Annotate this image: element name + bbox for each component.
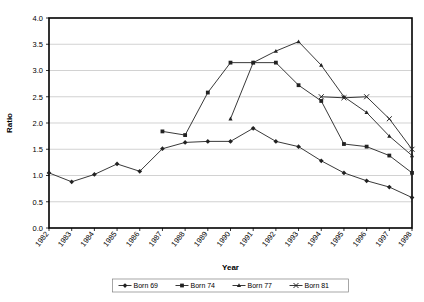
x-axis-tick-label-text: 1993 [283, 230, 300, 249]
data-point [410, 171, 414, 175]
data-point [365, 145, 369, 149]
x-axis-tick-label: 1984 [79, 230, 96, 249]
x-axis-tick-label-text: 1997 [374, 230, 391, 249]
y-axis-tick-label: 3.5 [33, 40, 43, 49]
x-axis-tick-label: 1988 [169, 230, 186, 249]
x-axis-tick-label: 1997 [374, 230, 391, 249]
chart-container: 0.00.51.01.52.02.53.03.54.01982198319841… [0, 0, 424, 302]
x-axis-tick-label: 1991 [237, 230, 254, 249]
x-axis-tick-label-text: 1990 [215, 230, 232, 249]
x-axis-tick-label: 1998 [396, 230, 413, 249]
line-chart: 0.00.51.01.52.02.53.03.54.01982198319841… [0, 0, 424, 302]
y-axis-tick-label: 2.0 [33, 119, 43, 128]
x-axis-tick-label: 1993 [283, 230, 300, 249]
x-axis-tick-label-text: 1987 [147, 230, 164, 249]
legend-item-label: Born 77 [248, 282, 273, 289]
legend-marker-square-icon [180, 284, 184, 288]
legend-item-label: Born 74 [191, 282, 216, 289]
data-point [229, 61, 233, 65]
data-point [183, 133, 187, 137]
data-point [297, 83, 301, 87]
x-axis-tick-label-text: 1984 [79, 230, 96, 249]
x-axis-tick-label-text: 1995 [328, 230, 345, 249]
x-axis-tick-label: 1992 [260, 230, 277, 249]
x-axis-tick-label-text: 1989 [192, 230, 209, 249]
data-point [161, 130, 165, 134]
data-point [342, 142, 346, 146]
y-axis-tick-label: 4.0 [33, 14, 43, 23]
x-axis-tick-label-text: 1988 [169, 230, 186, 249]
x-axis-tick-label-text: 1983 [56, 230, 73, 249]
x-axis-tick-label: 1985 [101, 230, 118, 249]
x-axis-tick-label-text: 1996 [351, 230, 368, 249]
x-axis-tick-label: 1995 [328, 230, 345, 249]
x-axis-tick-label: 1990 [215, 230, 232, 249]
data-point [274, 61, 278, 65]
data-point [319, 99, 323, 103]
x-axis-tick-label: 1983 [56, 230, 73, 249]
y-axis-title: Ratio [5, 113, 14, 133]
x-axis-tick-label-text: 1992 [260, 230, 277, 249]
x-axis-tick-label-text: 1986 [124, 230, 141, 249]
chart-legend: Born 69Born 74Born 77Born 81 [113, 279, 349, 292]
y-axis-tick-label: 0.5 [33, 198, 43, 207]
x-axis-tick-label-text: 1985 [101, 230, 118, 249]
x-axis-tick-label: 1996 [351, 230, 368, 249]
x-axis-tick-label-text: 1991 [237, 230, 254, 249]
data-point [206, 91, 210, 95]
y-axis-tick-label: 1.5 [33, 145, 43, 154]
x-axis-tick-label-text: 1994 [305, 230, 322, 249]
y-axis-tick-label: 3.0 [33, 66, 43, 75]
x-axis-tick-label: 1987 [147, 230, 164, 249]
x-axis-tick-label: 1986 [124, 230, 141, 249]
y-axis-tick-label: 2.5 [33, 93, 43, 102]
x-axis-title: Year [222, 263, 239, 272]
x-axis-tick-label-text: 1998 [396, 230, 413, 249]
legend-item-label: Born 69 [134, 282, 159, 289]
x-axis-tick-label: 1989 [192, 230, 209, 249]
legend-item-label: Born 81 [305, 282, 330, 289]
x-axis-tick-label: 1994 [305, 230, 322, 249]
y-axis-tick-label: 1.0 [33, 171, 43, 180]
data-point [387, 154, 391, 158]
